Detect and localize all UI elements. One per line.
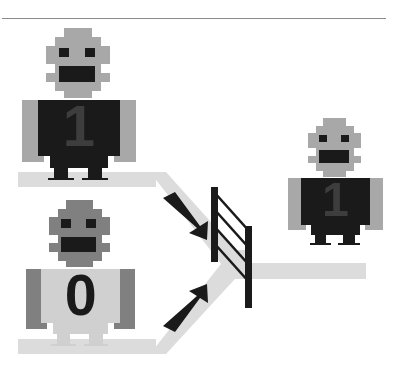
robot-head [49, 200, 110, 267]
robot-head [308, 118, 361, 176]
robot-eye-right [341, 135, 349, 143]
gate-post-right [245, 226, 252, 308]
robot-top-left[interactable]: 1 [22, 28, 142, 180]
robot-mouth [319, 150, 349, 163]
robot-right[interactable]: 1 [288, 118, 388, 245]
robot-head [46, 28, 110, 98]
robot-leg-left [54, 168, 68, 178]
gate-rail-1 [214, 192, 249, 231]
robot-foot-right [82, 178, 108, 180]
diagram-canvas: 1 [0, 0, 400, 382]
gate-rail-2 [214, 209, 249, 248]
robot-eye-left [61, 219, 71, 228]
robot-foot-left [310, 243, 332, 245]
robot-foot-left [48, 178, 74, 180]
robot-leg-right [89, 334, 102, 344]
gate-rails [214, 192, 249, 282]
gate-rail-3 [214, 226, 249, 265]
robot-leg-left [57, 334, 70, 344]
robot-eye-right [86, 219, 96, 228]
robot-mouth [59, 66, 95, 82]
robot-chest-digit: 1 [322, 173, 349, 227]
robot-eye-left [59, 48, 69, 57]
robot-foot-left [51, 344, 76, 346]
robot-mouth [61, 237, 96, 252]
robot-eye-left [319, 135, 327, 143]
robot-foot-right [338, 243, 360, 245]
robot-chest-digit: 1 [63, 93, 95, 158]
robot-legs [310, 235, 360, 245]
robot-leg-left [315, 235, 327, 243]
robot-legs [48, 168, 108, 180]
robot-leg-right [88, 168, 102, 178]
robot-foot-right [84, 344, 109, 346]
robot-eye-right [85, 48, 95, 57]
robot-bottom-left[interactable]: 0 [26, 200, 141, 346]
robot-chest-digit: 0 [65, 263, 97, 327]
robot-leg-right [343, 235, 355, 243]
robot-legs [51, 334, 109, 346]
gate-post-left [211, 187, 218, 262]
gate-rail-4 [214, 243, 249, 282]
